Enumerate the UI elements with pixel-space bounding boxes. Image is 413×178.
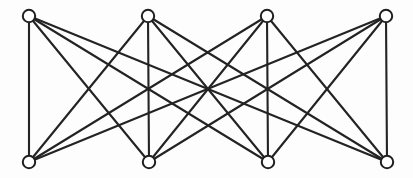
graph-node[interactable] [142,10,154,22]
graph-node-circle[interactable] [381,156,393,168]
graph-canvas [0,0,413,178]
graph-node-circle[interactable] [262,156,274,168]
graph-node[interactable] [261,10,273,22]
graph-node-circle[interactable] [261,10,273,22]
graph-node-circle[interactable] [380,10,392,22]
graph-node[interactable] [381,156,393,168]
graph-node-circle[interactable] [23,156,35,168]
graph-node[interactable] [262,156,274,168]
graph-node[interactable] [380,10,392,22]
graph-edge [386,16,387,162]
graph-node-circle[interactable] [23,10,35,22]
edge-layer [29,16,387,162]
graph-node-circle[interactable] [142,10,154,22]
graph-figure [0,0,413,178]
graph-node[interactable] [23,156,35,168]
graph-node[interactable] [143,156,155,168]
graph-node-circle[interactable] [143,156,155,168]
graph-node[interactable] [23,10,35,22]
